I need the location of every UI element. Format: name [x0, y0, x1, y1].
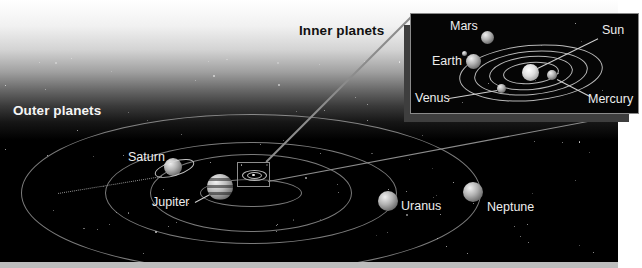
star	[514, 226, 515, 227]
star	[422, 135, 423, 136]
star	[39, 62, 40, 63]
star	[5, 85, 6, 86]
star	[581, 41, 582, 42]
venus-planet	[497, 84, 506, 93]
star	[527, 224, 528, 225]
star	[528, 242, 529, 243]
star	[128, 112, 129, 113]
star	[277, 62, 279, 64]
jupiter-label: Jupiter	[152, 196, 190, 209]
star	[589, 152, 590, 153]
inner-planets-inset: SunMercuryVenusEarthMars	[410, 13, 639, 114]
neptune-planet	[463, 182, 483, 202]
earth-label: Earth	[432, 55, 462, 68]
star	[77, 130, 78, 131]
star	[534, 141, 535, 142]
star	[324, 110, 325, 111]
star	[367, 120, 368, 121]
star	[208, 61, 209, 62]
star	[593, 252, 594, 253]
star	[462, 102, 463, 103]
star	[562, 142, 564, 144]
mars-label: Mars	[450, 20, 478, 33]
star	[5, 149, 6, 150]
star	[428, 118, 429, 119]
saturn-label: Saturn	[128, 151, 165, 164]
star	[579, 141, 581, 143]
star	[147, 120, 148, 121]
star	[45, 89, 46, 90]
star	[355, 97, 356, 98]
venus-label: Venus	[415, 92, 450, 105]
mercury-label: Mercury	[588, 93, 633, 106]
star	[71, 58, 72, 59]
solar-system-figure: SaturnJupiterUranusNeptune Outer planets…	[0, 0, 642, 268]
sun-planet	[522, 64, 539, 81]
uranus-planet	[378, 191, 398, 211]
star	[399, 61, 401, 63]
mercury-planet	[547, 70, 557, 80]
neptune-label: Neptune	[487, 201, 534, 214]
inner-planets-target-box	[237, 162, 270, 187]
earth-planet	[466, 54, 481, 69]
star	[55, 62, 57, 64]
star	[319, 64, 320, 65]
figure-bottom-edge	[0, 262, 618, 268]
sun-label: Sun	[602, 24, 624, 37]
star	[446, 246, 447, 247]
star	[539, 118, 540, 119]
jupiter-planet	[207, 174, 233, 200]
star	[195, 80, 196, 81]
inner-planets-title: Inner planets	[299, 23, 384, 38]
star	[213, 75, 215, 77]
star	[532, 193, 533, 194]
mini-sun-dot	[252, 174, 255, 177]
star	[467, 253, 468, 254]
star	[226, 59, 228, 61]
star	[367, 104, 368, 105]
star	[575, 23, 576, 24]
uranus-label: Uranus	[401, 200, 441, 213]
star	[497, 117, 498, 118]
star	[579, 245, 580, 246]
star	[278, 84, 280, 86]
star	[575, 180, 576, 181]
star	[111, 71, 113, 73]
mini-orbit-inner	[247, 172, 262, 179]
star	[296, 111, 297, 112]
mars-planet	[481, 31, 494, 44]
star	[520, 236, 521, 237]
moon-planet	[462, 51, 467, 56]
outer-planets-title: Outer planets	[13, 103, 101, 118]
